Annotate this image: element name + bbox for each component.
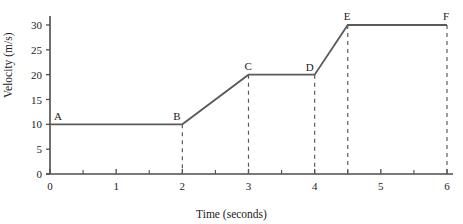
point-label-a: A	[54, 111, 62, 122]
velocity-time-chart: 051015202530 0123456 ABCDEF Velocity (m/…	[0, 0, 463, 224]
x-tick-label: 3	[246, 181, 252, 192]
x-tick-label: 5	[378, 181, 384, 192]
y-axis-title: Velocity (m/s)	[2, 33, 14, 98]
point-label-b: B	[173, 111, 180, 122]
point-label-c: C	[245, 61, 252, 72]
plot-area	[0, 0, 463, 224]
y-tick-label: 30	[18, 20, 42, 31]
x-tick-label: 1	[113, 181, 119, 192]
x-axis-title: Time (seconds)	[0, 208, 463, 220]
x-tick-label: 6	[444, 181, 450, 192]
x-tick-label: 0	[47, 181, 53, 192]
y-tick-label: 5	[18, 144, 42, 155]
x-tick-label: 2	[180, 181, 186, 192]
point-label-d: D	[306, 62, 314, 73]
y-tick-label: 0	[18, 169, 42, 180]
y-tick-label: 20	[18, 69, 42, 80]
x-tick-label: 4	[312, 181, 318, 192]
y-tick-label: 15	[18, 94, 42, 105]
point-label-f: F	[443, 11, 449, 22]
y-tick-label: 10	[18, 119, 42, 130]
y-tick-label: 25	[18, 44, 42, 55]
point-label-e: E	[344, 11, 351, 22]
